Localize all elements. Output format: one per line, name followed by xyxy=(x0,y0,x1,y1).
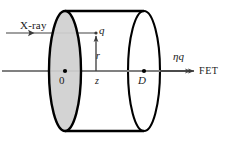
radius-label: r xyxy=(96,51,100,61)
induced-charge-label: ηq xyxy=(173,51,184,62)
depth-label: z xyxy=(95,76,99,86)
thickness-label: D xyxy=(138,75,146,86)
thickness-point-marker xyxy=(142,69,146,73)
fet-label: FET xyxy=(199,66,219,76)
xray-label: X-ray xyxy=(20,20,47,31)
origin-label: 0 xyxy=(59,75,65,86)
xray-detector-diagram: X-ray q r 0 z D ηq FET xyxy=(0,0,229,143)
origin-point-marker xyxy=(63,69,67,73)
charge-label: q xyxy=(99,25,105,36)
charge-point-marker xyxy=(94,31,97,34)
